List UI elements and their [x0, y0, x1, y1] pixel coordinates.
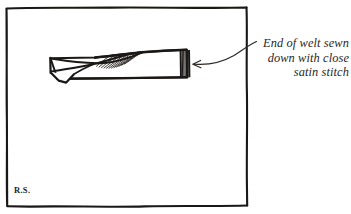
satin-stitch-block [181, 50, 189, 77]
callout-line-1: End of welt sewn [250, 36, 349, 51]
artist-initials: R.S. [14, 185, 30, 195]
welt-strip [50, 50, 189, 83]
callout-line-3: satin stitch [250, 65, 349, 80]
hand-drawn-rectangular-border [7, 8, 248, 207]
callout-line-2: down with close [250, 51, 349, 66]
callout-label: End of welt sewn down with close satin s… [250, 36, 349, 80]
figure-canvas [0, 0, 351, 214]
illustration-page: End of welt sewn down with close satin s… [0, 0, 351, 214]
